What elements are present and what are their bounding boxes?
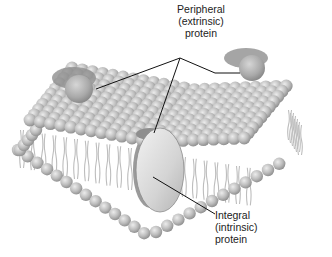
integral-label-line1: Integral — [215, 209, 258, 221]
membrane-illustration — [0, 0, 332, 257]
peripheral-label-line2: (extrinsic) — [170, 15, 232, 27]
integral-protein-label: Integral (intrinsic) protein — [215, 209, 258, 245]
integral-label-line2: (intrinsic) — [215, 221, 258, 233]
peripheral-protein-label: Peripheral (extrinsic) protein — [170, 3, 232, 39]
peripheral-protein-left — [65, 75, 93, 103]
peripheral-protein-right — [239, 55, 265, 81]
membrane-diagram: Peripheral (extrinsic) protein Integral … — [0, 0, 332, 257]
integral-protein-front — [136, 128, 184, 212]
peripheral-label-line1: Peripheral — [170, 3, 232, 15]
peripheral-label-line3: protein — [170, 27, 232, 39]
integral-label-line3: protein — [215, 233, 258, 245]
